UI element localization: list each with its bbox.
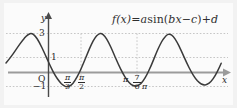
formula-equals: =: [131, 13, 140, 26]
y-axis-label: y: [41, 14, 46, 23]
y-tick-label-1: 1: [51, 53, 57, 62]
formula-bx: bx: [168, 13, 181, 26]
formula-d: d: [211, 13, 218, 26]
formula-plus: +: [202, 13, 211, 26]
y-tick-label-minus-1: −1: [33, 82, 46, 91]
x-tick-7pi-over-6-fraction: 7 6: [133, 74, 141, 92]
y-tick-label-3: 3: [39, 29, 45, 38]
x-tick-label-pi-over-2: π 2: [78, 74, 85, 92]
function-graph-figure: f(x)=asin(bx−c)+d y x O 3 1 −1 π 3 π 2 π…: [0, 0, 237, 108]
x-tick-7pi-over-6-pi: π: [141, 82, 147, 92]
formula-fx: f(x): [112, 13, 131, 26]
x-tick-7pi-over-6-numerator: 7: [134, 74, 139, 82]
x-tick-pi-over-2-denominator: 2: [78, 83, 85, 91]
x-tick-label-pi-over-3: π 3: [64, 74, 71, 92]
x-tick-pi-over-3-denominator: 3: [64, 83, 71, 91]
formula-minus: −: [182, 13, 191, 26]
x-tick-pi-over-3-numerator: π: [64, 74, 71, 82]
x-tick-pi-over-2-numerator: π: [78, 74, 85, 82]
x-tick-label-pi: π: [123, 76, 128, 84]
function-formula: f(x)=asin(bx−c)+d: [112, 13, 218, 26]
x-tick-7pi-over-6-denominator: 6: [134, 83, 139, 91]
x-axis-label: x: [222, 76, 227, 85]
formula-sin: sin: [147, 13, 164, 26]
x-tick-label-7pi-over-6: 7 6 π: [133, 74, 147, 92]
